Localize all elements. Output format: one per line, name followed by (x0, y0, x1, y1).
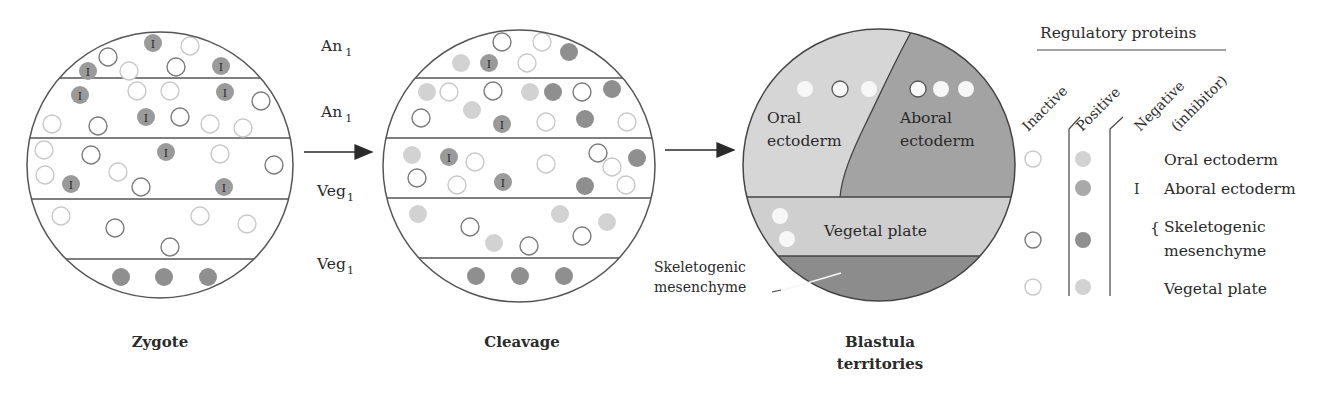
inactive-protein-icon (484, 82, 502, 100)
inactive-protein-icon (589, 144, 607, 162)
inactive-protein-icon (99, 48, 117, 66)
positive-protein-light-icon (485, 234, 503, 252)
zygote-cells: IIIIIIIII (35, 34, 283, 286)
inhibitor-glyph: I (144, 112, 148, 125)
oral-ectoderm-label-line1: Oral (767, 109, 801, 127)
inactive-protein-icon (408, 169, 426, 187)
cleavage-cells: IIII (403, 33, 646, 285)
positive-protein-light-icon (551, 205, 569, 223)
inactive-protein-faint-icon (448, 176, 466, 194)
legend-skeletogenic-inactive-icon (1025, 232, 1041, 248)
positive-protein-dark-icon (555, 267, 573, 285)
inhibitor-glyph: I (151, 38, 155, 51)
inactive-protein-icon (89, 117, 107, 135)
zygote-outline (27, 32, 293, 298)
inactive-protein-faint-icon (128, 82, 146, 100)
band-label-veg1-second: Veg1 (316, 255, 354, 277)
inactive-protein-icon (167, 58, 185, 76)
blastula-cell-icon (933, 81, 949, 97)
inhibitor-glyph: I (487, 58, 491, 71)
positive-protein-light-icon (598, 213, 616, 231)
inhibitor-glyph: I (86, 66, 90, 79)
inactive-protein-icon (573, 227, 591, 245)
inactive-protein-faint-icon (52, 207, 70, 225)
band-label-an1-second: An1 (320, 103, 352, 125)
inactive-protein-icon (132, 178, 150, 196)
inactive-protein-faint-icon (211, 145, 229, 163)
blastula-cell-outlined-icon (910, 81, 926, 97)
skeletogenic-callout-line1: Skeletogenic (654, 259, 746, 275)
inactive-protein-faint-icon (618, 113, 636, 131)
positive-protein-light-icon (409, 205, 427, 223)
blastula-embryo: Oral ectoderm Aboral ectoderm Vegetal pl… (740, 25, 1020, 306)
blastula-cell-outlined-icon (832, 81, 848, 97)
inactive-protein-faint-icon (36, 166, 54, 184)
legend-vegetal-inactive-icon (1025, 279, 1041, 295)
inhibitor-glyph: I (500, 119, 504, 132)
cleavage-label: Cleavage (484, 333, 559, 351)
legend: Regulatory proteins Inactive Positive Ne… (1019, 24, 1296, 298)
inactive-protein-icon (252, 92, 270, 110)
inactive-protein-faint-icon (43, 115, 61, 133)
inactive-protein-faint-icon (440, 83, 458, 101)
legend-aboral-positive-icon (1075, 180, 1091, 196)
band-labels: An1 An1 Veg1 Veg1 (316, 37, 354, 277)
blastula-cell-icon (797, 81, 813, 97)
skeletogenic-callout-line2: mesenchyme (654, 279, 746, 295)
positive-protein-dark-icon (576, 177, 594, 195)
band-label-veg1-first: Veg1 (316, 182, 354, 204)
positive-protein-light-icon (521, 83, 539, 101)
positive-protein-light-icon (452, 54, 470, 72)
cleavage-embryo: IIII (370, 30, 670, 302)
inhibitor-glyph: I (447, 152, 451, 165)
positive-protein-dark-icon (112, 268, 130, 286)
legend-row-aboral-label: Aboral ectoderm (1163, 180, 1296, 198)
blastula-label-line1: Blastula (845, 333, 915, 351)
inactive-protein-icon (265, 156, 283, 174)
legend-col-positive: Positive (1073, 84, 1123, 134)
inactive-protein-faint-icon (109, 163, 127, 181)
inactive-protein-faint-icon (617, 176, 635, 194)
inhibitor-glyph: I (501, 177, 505, 190)
positive-protein-dark-icon (511, 267, 529, 285)
cleavage-band-lines (370, 78, 670, 258)
positive-protein-dark-icon (628, 149, 646, 167)
legend-oral-inactive-icon (1025, 151, 1041, 167)
positive-protein-dark-icon (544, 83, 562, 101)
inactive-protein-icon (493, 33, 511, 51)
inhibitor-glyph: I (219, 61, 223, 74)
legend-row-skeletogenic-line1: Skeletogenic (1164, 218, 1266, 236)
inactive-protein-faint-icon (35, 141, 53, 159)
zygote-label: Zygote (132, 333, 189, 351)
inactive-protein-faint-icon (234, 119, 252, 137)
positive-protein-dark-icon (603, 80, 621, 98)
inactive-protein-icon (161, 238, 179, 256)
inactive-protein-faint-icon (201, 115, 219, 133)
vegetal-plate-label: Vegetal plate (823, 222, 927, 240)
blastula-cell-icon (958, 81, 974, 97)
inactive-protein-icon (82, 146, 100, 164)
inhibitor-glyph: I (78, 90, 82, 103)
legend-divider-2 (1110, 117, 1123, 296)
inactive-protein-faint-icon (181, 37, 199, 55)
inactive-protein-faint-icon (466, 153, 484, 171)
aboral-ectoderm-label-line2: ectoderm (900, 132, 975, 150)
inactive-protein-faint-icon (533, 33, 551, 51)
inactive-protein-icon (412, 109, 430, 127)
positive-protein-dark-icon (155, 268, 173, 286)
inactive-protein-icon (171, 108, 189, 126)
blastula-cell-icon (772, 208, 788, 224)
positive-protein-light-icon (418, 83, 436, 101)
blastula-label-line2: territories (837, 355, 924, 373)
legend-oral-positive-icon (1075, 151, 1091, 167)
inactive-protein-icon (461, 218, 479, 236)
positive-protein-dark-icon (560, 43, 578, 61)
inactive-protein-faint-icon (191, 207, 209, 225)
inhibitor-glyph: I (164, 147, 168, 160)
inactive-protein-icon (106, 219, 124, 237)
aboral-ectoderm-label-line1: Aboral (899, 109, 952, 127)
legend-divider-1 (1069, 117, 1080, 296)
legend-row-oral-label: Oral ectoderm (1164, 151, 1278, 169)
legend-row-skeletogenic-line2: mesenchyme (1164, 242, 1266, 260)
inhibitor-glyph: I (223, 87, 227, 100)
